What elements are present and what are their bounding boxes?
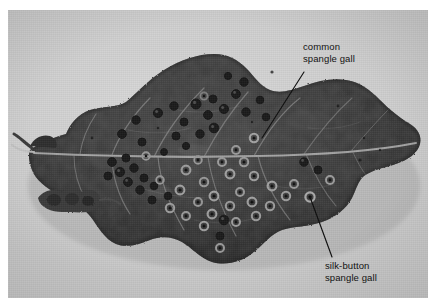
figure-plate: common spangle gall silk-button spangle … bbox=[0, 0, 438, 308]
leaf-photograph: common spangle gall silk-button spangle … bbox=[8, 10, 428, 298]
leaf-body bbox=[8, 10, 428, 298]
annotation-silk-line1: silk-button bbox=[325, 260, 377, 272]
annotation-silk-line2: spangle gall bbox=[325, 272, 377, 284]
leaf-illustration bbox=[8, 10, 428, 298]
annotation-common-line1: common bbox=[303, 41, 355, 53]
annotation-common-spangle-gall: common spangle gall bbox=[303, 41, 355, 66]
annotation-common-line2: spangle gall bbox=[303, 53, 355, 65]
annotation-silk-button-spangle-gall: silk-button spangle gall bbox=[325, 260, 377, 285]
